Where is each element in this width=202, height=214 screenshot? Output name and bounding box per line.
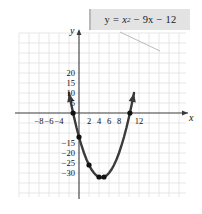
x-tick-label: 6 (107, 116, 111, 126)
equation-term3: − 12 (157, 14, 177, 25)
equation-label: y = x2 − 9x − 12 (89, 9, 190, 30)
x-tick-label: −4 (54, 116, 63, 126)
y-axis-arrowhead (77, 29, 82, 35)
y-tick-label: −20 (57, 148, 75, 158)
y-tick-label: 10 (57, 88, 75, 98)
y-tick-label: 15 (57, 78, 75, 88)
y-tick-label: 5 (57, 98, 75, 108)
plotted-points-group (71, 110, 133, 179)
data-point (96, 174, 101, 179)
equation-term2: − 9x (131, 14, 157, 25)
quadratic-graph-figure: y = x2 − 9x − 12 y x −8−6−42468122015105… (0, 0, 202, 214)
equation-equals: = (110, 14, 122, 25)
y-tick-label: −30 (57, 168, 75, 178)
data-point (86, 162, 91, 167)
x-tick-label: 12 (135, 116, 144, 126)
data-point (127, 110, 132, 115)
y-axis-label: y (70, 25, 74, 36)
label-leader-line (120, 32, 160, 51)
data-point (76, 134, 81, 139)
grid-lines (19, 33, 186, 197)
x-tick-label: −8 (34, 116, 43, 126)
x-tick-label: −6 (44, 116, 53, 126)
axis-lines (15, 31, 188, 199)
y-tick-label: −25 (57, 158, 75, 168)
data-point (71, 110, 76, 115)
x-tick-label: 4 (97, 116, 101, 126)
x-axis-label: x (189, 112, 193, 123)
y-tick-label: 20 (57, 68, 75, 78)
data-point (101, 174, 106, 179)
x-tick-label: 8 (117, 116, 121, 126)
x-axis-arrowhead (182, 111, 188, 116)
x-tick-label: 2 (87, 116, 91, 126)
coordinate-plane (0, 0, 202, 214)
y-tick-label: −15 (57, 138, 75, 148)
